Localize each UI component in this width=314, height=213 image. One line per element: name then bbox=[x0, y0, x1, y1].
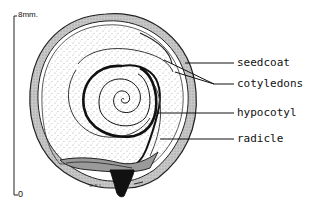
artist-initials: W.E.L. bbox=[89, 183, 104, 188]
label-cotyledons: cotyledons bbox=[237, 78, 303, 89]
scale-bar bbox=[14, 16, 18, 195]
label-radicle: radicle bbox=[237, 133, 283, 144]
seed-diagram: 8mm. 0 seedcoat cotyledons hypocotyl rad… bbox=[0, 0, 314, 213]
scale-bottom-label: 0 bbox=[18, 190, 23, 199]
scale-top-label: 8mm. bbox=[18, 11, 38, 19]
label-seedcoat: seedcoat bbox=[237, 57, 290, 68]
label-hypocotyl: hypocotyl bbox=[237, 107, 297, 118]
